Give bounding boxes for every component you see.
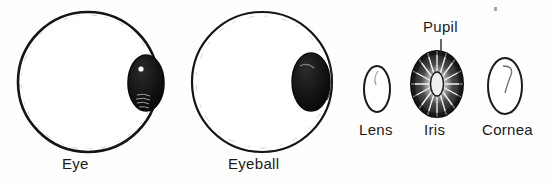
label-eye: Eye	[62, 155, 89, 172]
cornea-illustration	[488, 58, 522, 114]
eye-anatomy-figure: Eye Eyeball Lens Iris Cornea Pupil	[0, 0, 549, 188]
iris-illustration	[409, 49, 465, 119]
label-iris: Iris	[424, 121, 445, 138]
pupil-opening	[431, 72, 444, 96]
lens-illustration	[364, 66, 390, 112]
eye-highlight-dot	[138, 66, 143, 71]
eyeball-illustration	[192, 12, 332, 152]
label-cornea: Cornea	[482, 121, 533, 138]
label-eyeball: Eyeball	[228, 155, 279, 172]
label-pupil: Pupil	[423, 18, 458, 35]
scan-speck	[494, 7, 497, 11]
eye-illustration	[18, 12, 164, 152]
eyeball-iris-oval	[292, 53, 330, 111]
label-lens: Lens	[359, 121, 393, 138]
